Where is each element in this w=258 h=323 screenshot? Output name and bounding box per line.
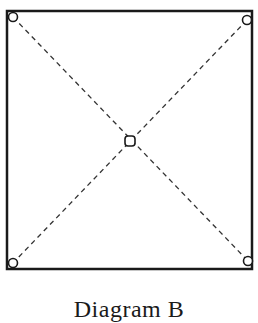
node-bottom-left	[9, 259, 18, 268]
diagram-caption: Diagram B	[0, 296, 258, 323]
node-top-right	[243, 16, 252, 25]
node-bottom-right	[244, 257, 253, 266]
node-center	[125, 136, 135, 146]
node-top-left	[9, 13, 18, 22]
